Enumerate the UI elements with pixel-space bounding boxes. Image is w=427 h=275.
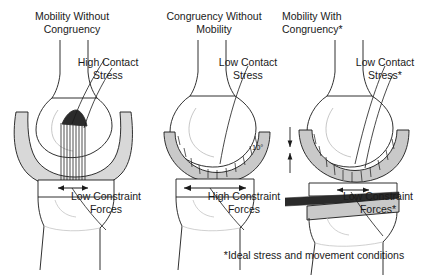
callout-low-contact-stress: Low Contact Stress <box>210 56 286 81</box>
callout-low-contact-stress-ideal: Low Contact Stress* <box>347 56 423 81</box>
callout-low-constraint-forces: Low Constraint Forces <box>60 190 152 215</box>
panel-title-mobility-without-congruency: Mobility Without Congruency <box>8 10 136 35</box>
panel-title-congruency-without-mobility: Congruency Without Mobility <box>148 10 280 35</box>
callout-high-contact-stress: High Contact Stress <box>70 56 146 81</box>
callout-low-constraint-forces-ideal: Low Constraint Forces* <box>332 190 424 215</box>
angle-label-ten-degrees: 10° <box>252 144 263 152</box>
leader-low-contact-stress-2 <box>365 74 393 168</box>
figure-footnote: *Ideal stress and movement conditions <box>205 249 423 262</box>
knee-implant-comparison-figure: Mobility Without Congruency <box>0 0 427 275</box>
panel-title-mobility-with-congruency: Mobility With Congruency* <box>282 10 402 35</box>
